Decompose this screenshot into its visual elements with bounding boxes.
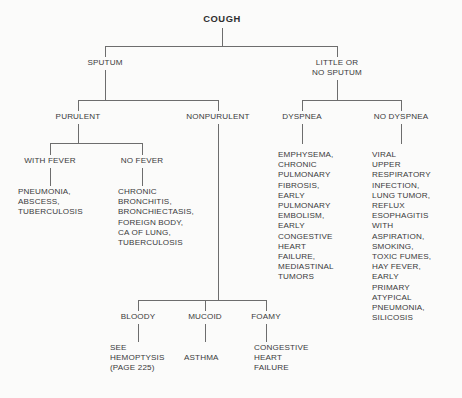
node-mucoid: MUCOID	[188, 312, 222, 322]
connector-to-dyspnea	[302, 100, 303, 111]
node-with-fever: WITH FEVER	[24, 156, 75, 166]
node-little-or-no-sputum: LITTLE OR NO SPUTUM	[312, 58, 362, 78]
connector-to-mucoid	[205, 300, 206, 311]
connector-to-no-dyspnea	[401, 100, 402, 111]
connector-no-dyspnea-stem	[401, 124, 402, 144]
connector-sputum-stem	[105, 70, 106, 100]
leaf-foamy-diagnoses: CONGESTIVE HEART FAILURE	[254, 343, 309, 374]
connector-purulent-stem	[78, 124, 79, 143]
node-foamy: FOAMY	[251, 312, 281, 322]
node-purulent: PURULENT	[56, 112, 101, 122]
connector-to-no-fever	[142, 143, 143, 155]
leaf-mucoid-diagnoses: ASTHMA	[184, 353, 219, 363]
connector-to-foamy	[266, 300, 267, 311]
node-sputum: SPUTUM	[87, 58, 122, 68]
connector-level1-bus	[105, 46, 338, 47]
node-nonpurulent: NONPURULENT	[186, 112, 249, 122]
connector-foamy-stem	[266, 324, 267, 342]
leaf-with-fever-diagnoses: PNEUMONIA, ABSCESS, TUBERCULOSIS	[18, 187, 83, 218]
connector-mucoid-stem	[205, 324, 206, 342]
connector-to-sputum	[105, 46, 106, 57]
node-no-fever: NO FEVER	[121, 156, 164, 166]
connector-sputum-character-bus	[138, 300, 266, 301]
connector-purulent-bus	[50, 143, 142, 144]
leaf-no-dyspnea-diagnoses: VIRAL UPPER RESPIRATORY INFECTION, LUNG …	[372, 150, 431, 323]
connector-to-with-fever	[50, 143, 51, 155]
connector-bloody-stem	[138, 324, 139, 342]
connector-with-fever-stem	[50, 168, 51, 186]
connector-no-fever-stem	[142, 168, 143, 186]
node-cough: COUGH	[203, 14, 240, 24]
node-dyspnea: DYSPNEA	[282, 112, 322, 122]
leaf-bloody-diagnoses: SEE HEMOPTYSIS (PAGE 225)	[110, 343, 165, 374]
leaf-dyspnea-diagnoses: EMPHYSEMA, CHRONIC PULMONARY FIBROSIS, E…	[278, 150, 334, 283]
connector-to-purulent	[78, 100, 79, 111]
cough-flowchart-diagram: COUGH SPUTUM LITTLE OR NO SPUTUM PURULEN…	[0, 0, 462, 398]
connector-dyspnea-stem	[302, 124, 303, 144]
leaf-no-fever-diagnoses: CHRONIC BRONCHITIS, BRONCHIECTASIS, FORE…	[118, 187, 194, 248]
connector-sputum-bus	[78, 100, 218, 101]
connector-to-nonpurulent	[218, 100, 219, 111]
connector-cough-stem	[222, 28, 223, 46]
node-bloody: BLOODY	[121, 312, 156, 322]
connector-to-bloody	[138, 300, 139, 311]
node-no-dyspnea: NO DYSPNEA	[374, 112, 429, 122]
connector-to-little-or-no-sputum	[337, 46, 338, 57]
connector-little-or-no-sputum-bus	[302, 100, 401, 101]
connector-little-or-no-sputum-stem	[337, 80, 338, 100]
connector-nonpurulent-stem	[218, 124, 219, 300]
